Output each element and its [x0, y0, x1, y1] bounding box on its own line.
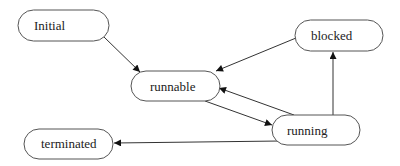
edge-running-to-runnable	[219, 88, 294, 115]
state-label-runnable: runnable	[150, 79, 196, 94]
state-label-blocked: blocked	[311, 28, 353, 43]
state-diagram: Initial runnable blocked running termina…	[0, 0, 400, 166]
state-running[interactable]: running	[272, 115, 360, 145]
state-label-terminated: terminated	[41, 136, 97, 151]
edge-running-to-terminated	[114, 141, 280, 143]
state-label-running: running	[287, 123, 328, 138]
edge-blocked-to-runnable	[216, 38, 296, 71]
edge-initial-to-runnable	[104, 37, 140, 72]
state-initial[interactable]: Initial	[18, 10, 109, 41]
state-blocked[interactable]: blocked	[295, 20, 383, 51]
edge-runnable-to-running	[205, 101, 272, 125]
state-runnable[interactable]: runnable	[131, 71, 220, 101]
state-label-initial: Initial	[34, 18, 65, 33]
state-terminated[interactable]: terminated	[24, 129, 113, 159]
